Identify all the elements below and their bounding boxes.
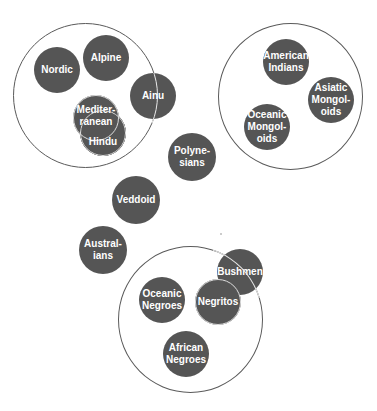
node-negritos: Negritos: [195, 279, 241, 325]
node-african-negroes: African Negroes: [163, 331, 209, 377]
node-nordic-label: Nordic: [41, 64, 73, 76]
node-oceanic-negroes: Oceanic Negroes: [139, 277, 185, 323]
node-american-indians: American Indians: [263, 39, 309, 85]
node-oceanic-negroes-label: Oceanic Negroes: [142, 288, 182, 312]
node-veddoid: Veddoid: [112, 176, 160, 224]
node-asiatic-mongoloids-label: Asiatic Mongol- oids: [312, 82, 351, 118]
node-alpine-label: Alpine: [91, 52, 122, 64]
node-hindu-label: Hindu: [89, 136, 117, 148]
node-oceanic-mongoloids-label: Oceanic Mongol- oids: [248, 109, 287, 145]
node-american-indians-label: American Indians: [263, 50, 309, 74]
node-ainu-label: Ainu: [142, 90, 164, 102]
node-australians: Austral- ians: [79, 226, 127, 274]
node-alpine: Alpine: [83, 35, 129, 81]
node-bushmen-label: Bushmen: [217, 266, 263, 278]
node-polynesians-label: Polyne- sians: [174, 145, 210, 169]
node-negritos-label: Negritos: [198, 296, 239, 308]
speck: [220, 233, 222, 235]
node-mediterranean: Mediter- ranean: [73, 95, 119, 141]
node-asiatic-mongoloids: Asiatic Mongol- oids: [308, 77, 354, 123]
node-african-negroes-label: African Negroes: [166, 342, 206, 366]
node-mediterranean-label: Mediter- ranean: [77, 104, 116, 128]
node-australians-label: Austral- ians: [84, 238, 122, 262]
node-oceanic-mongoloids: Oceanic Mongol- oids: [244, 104, 290, 150]
node-polynesians: Polyne- sians: [168, 133, 216, 181]
node-nordic: Nordic: [34, 47, 80, 93]
node-veddoid-label: Veddoid: [117, 194, 156, 206]
node-ainu: Ainu: [130, 73, 176, 119]
